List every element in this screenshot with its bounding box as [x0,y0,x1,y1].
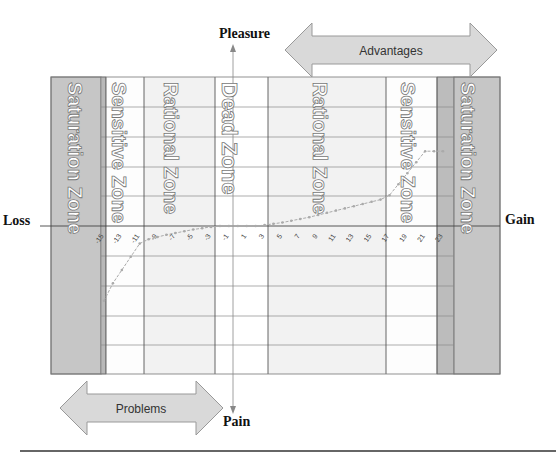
curve-point [397,183,400,186]
curve-point [228,225,231,228]
curve-point [326,212,329,215]
vertical-axis-up-arrowhead [230,44,236,52]
curve-point [103,300,106,303]
curve-point [281,221,284,224]
curve-point [415,161,418,164]
axis-label-pleasure: Pleasure [219,26,270,42]
vertical-axis-down-arrowhead [230,406,236,414]
curve-point [147,238,150,241]
curve-point [112,282,115,285]
zone-label-sensitive-right: Sensitive Zone [397,82,419,223]
curve-point [174,232,177,235]
curve-point [308,216,311,219]
problems-label: Problems [116,402,167,416]
zone-label-dead: Dead Zone [217,82,242,194]
axis-label-loss: Loss [3,213,30,229]
zone-label-saturation-right: Saturation Zone [457,82,479,234]
curve-point [370,201,373,204]
curve-point [299,218,302,221]
curve-point [335,209,338,212]
diagram-canvas: Saturation Zone Sensitive Zone Rational … [0,0,556,461]
curve-point [290,219,293,222]
curve-point [156,236,159,239]
curve-point [192,228,195,231]
curve-point [361,203,364,206]
curve-point [317,214,320,217]
curve-point [210,226,213,229]
curve-point [263,224,266,227]
curve-point [219,225,222,228]
advantages-arrow: Advantages [285,0,497,77]
curve-point [344,207,347,210]
axis-label-gain: Gain [505,212,535,228]
zone-label-sensitive-left: Sensitive Zone [108,82,130,223]
curve-point [352,205,355,208]
advantages-label: Advantages [359,44,422,58]
curve-point [424,150,427,153]
curve-point [201,227,204,230]
curve-point [129,255,132,258]
curve-point [183,230,186,233]
zone-label-rational-left: Rational Zone [160,82,182,214]
zone-saturation-left-band [101,77,106,374]
curve-point [433,150,436,153]
curve-point [138,242,141,245]
zone-saturation-right-band [437,77,454,374]
curve-point [388,194,391,197]
curve-point [165,234,168,237]
curve-point [442,150,445,153]
curve-point [406,172,409,175]
curve-point [245,225,248,228]
curve-point [254,225,257,228]
curve-point [121,269,124,272]
curve-point [237,225,240,228]
axis-label-pain: Pain [223,414,250,430]
zone-label-saturation-left: Saturation Zone [64,82,86,234]
zone-label-rational-right: Rational Zone [309,82,331,214]
problems-arrow: Problems [60,381,223,435]
curve-point [379,198,382,201]
curve-point [272,223,275,226]
